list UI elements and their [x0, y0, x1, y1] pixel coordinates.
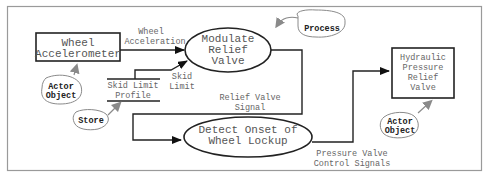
svg-text:Skid: Skid: [172, 72, 192, 82]
callout-actor-object-right: Actor Object: [380, 103, 429, 138]
svg-text:Relief: Relief: [408, 73, 439, 83]
svg-text:Control Signals: Control Signals: [314, 159, 391, 169]
svg-text:Object: Object: [46, 91, 77, 101]
flow-wheel-acceleration: Wheel Acceleration: [120, 27, 186, 50]
svg-text:Wheel Lockup: Wheel Lockup: [208, 135, 287, 147]
svg-text:Pressure: Pressure: [403, 63, 444, 73]
svg-text:Signal: Signal: [235, 103, 266, 113]
svg-text:Hydraulic: Hydraulic: [400, 53, 446, 63]
svg-text:Process: Process: [304, 24, 340, 34]
callout-actor-object-left: Actor Object: [42, 68, 82, 104]
callout-store: Store: [73, 105, 118, 130]
svg-text:Profile: Profile: [115, 91, 151, 101]
svg-text:Relief Valve: Relief Valve: [219, 93, 280, 103]
detect-onset-node: Detect Onset of Wheel Lockup: [184, 117, 312, 157]
hydraulic-valve-node: Hydraulic Pressure Relief Valve: [392, 48, 454, 98]
wheel-accelerometer-node: Wheel Accelerometer: [35, 33, 121, 61]
svg-text:Wheel: Wheel: [138, 27, 164, 37]
callout-process: Process: [278, 10, 345, 37]
svg-text:Object: Object: [385, 126, 416, 136]
svg-text:Skid Limit: Skid Limit: [107, 81, 158, 91]
modulate-relief-valve-node: Modulate Relief Valve: [185, 28, 271, 72]
skid-limit-profile-store: Skid Limit Profile: [107, 79, 160, 101]
svg-text:Acceleration: Acceleration: [124, 37, 185, 47]
svg-text:Limit: Limit: [169, 82, 195, 92]
svg-text:Valve: Valve: [410, 83, 436, 93]
flow-pressure-valve-control: Pressure Valve Control Signals: [312, 71, 390, 169]
svg-text:Store: Store: [78, 116, 104, 126]
svg-text:Valve: Valve: [211, 55, 244, 67]
svg-text:Wheel: Wheel: [61, 37, 94, 49]
svg-text:Pressure Valve: Pressure Valve: [316, 149, 387, 159]
svg-text:Accelerometer: Accelerometer: [35, 48, 121, 60]
dfd-diagram: Wheel Accelerometer Modulate Relief Valv…: [0, 0, 490, 179]
